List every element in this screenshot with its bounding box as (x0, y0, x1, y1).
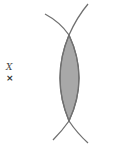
variable-label: X (6, 63, 12, 72)
lens-intersection (60, 35, 79, 121)
cross-mark-icon: × (6, 74, 14, 83)
lens-diagram (0, 0, 124, 146)
